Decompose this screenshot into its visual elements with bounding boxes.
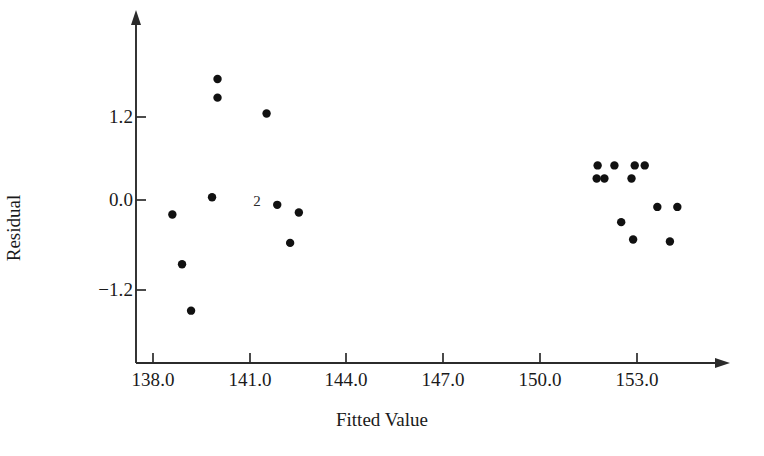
data-point <box>666 237 674 245</box>
xtick-label-4: 150.0 <box>518 369 561 391</box>
data-point <box>295 208 303 216</box>
data-point <box>273 201 281 209</box>
xtick-label-1: 141.0 <box>228 369 271 391</box>
data-point <box>617 218 625 226</box>
data-point <box>178 260 186 268</box>
xtick-label-5: 153.0 <box>615 369 658 391</box>
xtick-label-0: 138.0 <box>131 369 174 391</box>
residual-scatter-plot: 138.0 141.0 144.0 147.0 150.0 153.0 1.2 … <box>0 0 764 456</box>
data-point <box>208 193 216 201</box>
data-point <box>627 174 635 182</box>
data-point <box>600 174 608 182</box>
data-point <box>213 93 221 101</box>
x-axis <box>136 353 730 368</box>
data-point <box>187 306 195 314</box>
data-points-layer <box>168 75 681 315</box>
data-point <box>213 75 221 83</box>
data-point <box>593 161 601 169</box>
data-point <box>286 239 294 247</box>
y-axis-title: Residual <box>3 195 25 262</box>
data-point <box>629 235 637 243</box>
data-point <box>641 161 649 169</box>
data-point <box>653 203 661 211</box>
ytick-label-0: 1.2 <box>109 106 133 128</box>
data-point <box>262 109 270 117</box>
data-point <box>592 174 600 182</box>
y-axis <box>131 10 146 363</box>
ytick-label-2: −1.2 <box>98 279 133 301</box>
data-point <box>168 210 176 218</box>
ytick-label-1: 0.0 <box>109 189 133 211</box>
overlap-count-label: 2 <box>253 192 261 209</box>
x-axis-title: Fitted Value <box>0 409 764 431</box>
xtick-label-3: 147.0 <box>421 369 464 391</box>
data-point <box>673 203 681 211</box>
data-point <box>631 161 639 169</box>
xtick-label-2: 144.0 <box>324 369 367 391</box>
data-point <box>610 161 618 169</box>
